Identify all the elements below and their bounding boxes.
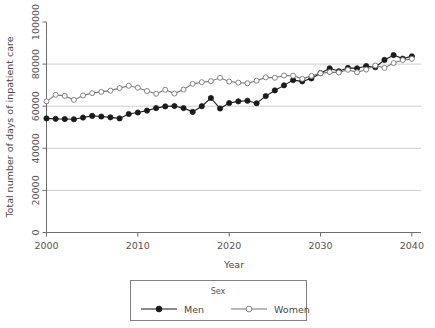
data-point-women — [263, 75, 268, 80]
data-point-women — [99, 89, 104, 94]
data-point-men — [53, 116, 58, 121]
data-point-women — [81, 93, 86, 98]
data-point-men — [163, 104, 168, 109]
data-point-women — [163, 87, 168, 92]
chart-figure: 020000400006000080000100000 200020102020… — [0, 0, 435, 328]
data-point-men — [99, 114, 104, 119]
legend-women-label: Women — [274, 304, 310, 315]
data-point-women — [391, 61, 396, 66]
data-point-women — [355, 70, 360, 75]
data-point-men — [108, 115, 113, 120]
data-point-women — [144, 89, 149, 94]
series-line-men — [47, 55, 412, 119]
data-point-women — [281, 73, 286, 78]
data-point-men — [172, 103, 177, 108]
data-point-women — [44, 99, 49, 104]
series-group — [44, 52, 415, 121]
data-point-women — [373, 63, 378, 68]
x-axis-title-text: Year — [223, 259, 244, 270]
y-axis-title-text: Total number of days of inpatient care — [4, 36, 15, 218]
legend-men-marker-filled-circle-icon — [156, 306, 162, 312]
x-tick-label: 2000 — [34, 240, 58, 251]
data-point-women — [172, 91, 177, 96]
y-tick-label: 60000 — [30, 91, 41, 121]
data-point-men — [227, 100, 232, 105]
data-point-men — [117, 116, 122, 121]
data-point-men — [80, 115, 85, 120]
data-point-women — [90, 91, 95, 96]
data-point-men — [236, 99, 241, 104]
data-point-women — [53, 92, 58, 97]
data-point-women — [218, 75, 223, 80]
data-point-men — [245, 98, 250, 103]
data-point-men — [135, 110, 140, 115]
data-point-men — [254, 101, 259, 106]
legend-men-label: Men — [184, 304, 204, 315]
data-point-women — [364, 67, 369, 72]
data-point-women — [181, 87, 186, 92]
data-point-women — [199, 80, 204, 85]
data-point-men — [126, 111, 131, 116]
data-point-men — [190, 109, 195, 114]
y-tick-label: 0 — [30, 229, 41, 235]
x-tick-label: 2010 — [126, 240, 150, 251]
data-point-men — [181, 105, 186, 110]
y-axis-title: Total number of days of inpatient care — [4, 36, 15, 218]
data-point-women — [318, 71, 323, 76]
y-tick-label: 20000 — [30, 175, 41, 205]
data-point-women — [190, 81, 195, 86]
data-point-men — [208, 95, 213, 100]
data-point-women — [135, 85, 140, 90]
series-men — [44, 52, 415, 121]
data-point-men — [263, 94, 268, 99]
data-point-men — [154, 105, 159, 110]
data-point-women — [409, 56, 414, 61]
x-tick-label: 2030 — [308, 240, 332, 251]
legend-title-text: Sex — [211, 287, 226, 296]
data-point-women — [400, 58, 405, 63]
data-point-women — [254, 78, 259, 83]
legend-item-men[interactable]: Men — [141, 304, 204, 315]
data-point-women — [291, 73, 296, 78]
x-tick-label: 2040 — [400, 240, 424, 251]
y-tick-label: 100000 — [30, 4, 41, 40]
data-point-women — [272, 75, 277, 80]
data-point-men — [391, 52, 396, 57]
data-point-women — [309, 73, 314, 78]
data-point-men — [62, 116, 67, 121]
data-point-men — [90, 113, 95, 118]
series-women — [44, 56, 414, 104]
data-point-women — [336, 70, 341, 75]
data-point-men — [217, 106, 222, 111]
legend-women-marker-open-circle-icon — [246, 306, 252, 312]
x-axis: 20002010202020302040 — [34, 233, 424, 251]
legend-item-women[interactable]: Women — [231, 304, 310, 315]
data-point-women — [154, 91, 159, 96]
y-tick-label: 80000 — [30, 49, 41, 79]
y-tick-label: 40000 — [30, 133, 41, 163]
data-point-women — [108, 88, 113, 93]
data-point-men — [382, 57, 387, 62]
data-point-women — [236, 80, 241, 85]
data-point-men — [281, 83, 286, 88]
x-tick-label: 2020 — [217, 240, 241, 251]
data-point-women — [126, 83, 131, 88]
data-point-men — [71, 117, 76, 122]
gridlines — [47, 64, 422, 190]
data-point-women — [71, 97, 76, 102]
data-point-women — [245, 81, 250, 86]
data-point-women — [382, 65, 387, 70]
data-point-women — [208, 79, 213, 84]
data-point-men — [199, 104, 204, 109]
data-point-women — [327, 70, 332, 75]
data-point-men — [44, 116, 49, 121]
data-point-women — [227, 79, 232, 84]
data-point-women — [62, 93, 67, 98]
data-point-women — [117, 86, 122, 91]
data-point-men — [144, 108, 149, 113]
data-point-women — [300, 76, 305, 81]
data-point-women — [345, 67, 350, 72]
legend: Sex Men Women — [131, 281, 310, 321]
data-point-men — [272, 88, 277, 93]
line-chart: 020000400006000080000100000 200020102020… — [0, 0, 435, 328]
